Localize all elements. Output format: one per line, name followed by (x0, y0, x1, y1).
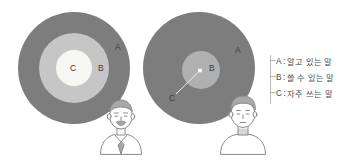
right-zone-a-label: A (235, 46, 241, 55)
right-person-illustration (216, 93, 270, 155)
legend-row-c: C : 자주 쓰는 말 (276, 85, 333, 101)
legend-key-c: C (276, 89, 282, 98)
figure-canvas: A B C (0, 0, 354, 160)
legend-separator-a: : (283, 57, 285, 66)
legend-key-b: B (276, 73, 282, 82)
left-person-beard (117, 121, 126, 125)
legend-row-b: B : 쓸 수 있는 말 (276, 69, 335, 85)
left-zone-a-label: A (115, 43, 121, 52)
legend-bracket-spine (270, 55, 271, 104)
legend-key-a: A (276, 57, 282, 66)
legend-text-c: 자주 쓰는 말 (287, 87, 332, 99)
right-person-ear-left (229, 112, 233, 118)
right-person-body (221, 135, 266, 155)
left-zone-c-label: C (70, 64, 76, 73)
legend-text-b: 쓸 수 있는 말 (287, 71, 335, 83)
legend-separator-b: : (283, 73, 285, 82)
right-person-ear-right (253, 112, 257, 118)
left-zone-b-label: B (98, 64, 104, 73)
right-zone-b-label: B (209, 64, 215, 73)
legend-separator-c: : (284, 89, 286, 98)
right-person-svg (216, 93, 270, 155)
left-person-ear-right (131, 114, 135, 120)
left-person-ear-left (107, 114, 111, 120)
legend: A : 알고 있는 말 B : 쓸 수 있는 말 C : 자주 쓰는 말 (266, 53, 354, 105)
right-zone-c-label: C (169, 94, 175, 103)
left-person-illustration (96, 97, 146, 155)
left-person-svg (96, 97, 146, 155)
legend-text-a: 알고 있는 말 (287, 55, 332, 67)
legend-row-a: A : 알고 있는 말 (276, 53, 332, 69)
